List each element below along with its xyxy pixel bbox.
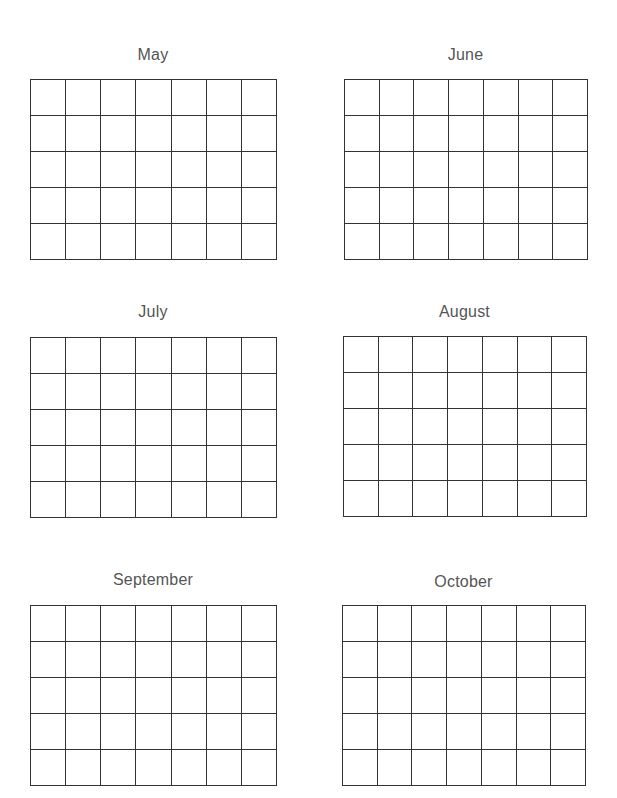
calendar-day-cell: [553, 152, 588, 188]
calendar-week-row: [31, 80, 277, 116]
calendar-day-cell: [413, 409, 448, 445]
calendar-day-cell: [241, 152, 276, 188]
calendar-day-cell: [553, 80, 588, 116]
calendar-day-cell: [449, 116, 484, 152]
calendar-day-cell: [31, 188, 66, 224]
calendar-day-cell: [412, 714, 447, 750]
calendar-day-cell: [482, 409, 517, 445]
calendar-day-cell: [412, 750, 447, 786]
calendar-day-cell: [101, 642, 136, 678]
calendar-day-cell: [414, 116, 449, 152]
calendar-day-cell: [66, 338, 101, 374]
calendar-week-row: [345, 224, 588, 260]
calendar-day-cell: [447, 606, 482, 642]
calendar-week-row: [31, 224, 277, 260]
calendar-day-cell: [449, 80, 484, 116]
calendar-day-cell: [482, 373, 517, 409]
calendar-day-cell: [101, 152, 136, 188]
calendar-day-cell: [518, 188, 553, 224]
calendar-day-cell: [31, 750, 66, 786]
calendar-day-cell: [31, 446, 66, 482]
calendar-day-cell: [241, 188, 276, 224]
calendar-day-cell: [31, 80, 66, 116]
calendar-day-cell: [517, 337, 552, 373]
calendar-day-cell: [377, 750, 412, 786]
calendar-day-cell: [414, 188, 449, 224]
calendar-grid: [30, 79, 277, 260]
calendar-day-cell: [345, 188, 380, 224]
calendar-day-cell: [518, 224, 553, 260]
calendar-day-cell: [101, 482, 136, 518]
calendar-grid: [30, 337, 277, 518]
calendar-day-cell: [241, 642, 276, 678]
calendar-day-cell: [516, 714, 551, 750]
calendar-week-row: [345, 152, 588, 188]
calendar-week-row: [31, 338, 277, 374]
calendar-day-cell: [66, 606, 101, 642]
calendar-day-cell: [66, 224, 101, 260]
calendar-week-row: [31, 446, 277, 482]
calendar-day-cell: [241, 80, 276, 116]
calendar-day-cell: [206, 410, 241, 446]
calendar-day-cell: [413, 337, 448, 373]
calendar-day-cell: [517, 445, 552, 481]
calendar-day-cell: [241, 482, 276, 518]
calendar-day-cell: [101, 750, 136, 786]
calendar-day-cell: [136, 80, 171, 116]
calendar-day-cell: [31, 116, 66, 152]
calendar-day-cell: [343, 714, 378, 750]
month-july: July: [30, 300, 276, 520]
calendar-day-cell: [447, 678, 482, 714]
calendar-day-cell: [31, 410, 66, 446]
calendar-day-cell: [412, 678, 447, 714]
calendar-day-cell: [136, 116, 171, 152]
calendar-day-cell: [344, 409, 379, 445]
calendar-day-cell: [448, 337, 483, 373]
calendar-week-row: [31, 482, 277, 518]
calendar-day-cell: [377, 642, 412, 678]
calendar-day-cell: [551, 678, 586, 714]
calendar-day-cell: [206, 714, 241, 750]
calendar-day-cell: [345, 80, 380, 116]
calendar-day-cell: [413, 445, 448, 481]
calendar-day-cell: [552, 409, 587, 445]
calendar-day-cell: [136, 188, 171, 224]
calendar-week-row: [31, 374, 277, 410]
month-title: September: [30, 571, 276, 589]
month-june: June: [344, 42, 587, 262]
calendar-day-cell: [206, 80, 241, 116]
calendar-day-cell: [483, 80, 518, 116]
calendar-week-row: [345, 80, 588, 116]
calendar-day-cell: [206, 482, 241, 518]
calendar-day-cell: [412, 642, 447, 678]
calendar-day-cell: [101, 338, 136, 374]
calendar-day-cell: [343, 606, 378, 642]
calendar-day-cell: [31, 714, 66, 750]
calendar-grid: [342, 605, 586, 786]
calendar-week-row: [31, 606, 277, 642]
calendar-day-cell: [481, 606, 516, 642]
calendar-week-row: [345, 188, 588, 224]
month-title: June: [344, 46, 587, 64]
calendar-day-cell: [136, 642, 171, 678]
calendar-day-cell: [551, 750, 586, 786]
calendar-week-row: [344, 373, 587, 409]
calendar-day-cell: [136, 152, 171, 188]
calendar-day-cell: [31, 224, 66, 260]
calendar-day-cell: [136, 750, 171, 786]
calendar-day-cell: [414, 80, 449, 116]
calendar-day-cell: [136, 482, 171, 518]
calendar-day-cell: [378, 481, 413, 517]
calendar-day-cell: [101, 80, 136, 116]
calendar-day-cell: [171, 80, 206, 116]
calendar-day-cell: [241, 606, 276, 642]
calendar-day-cell: [413, 373, 448, 409]
calendar-day-cell: [345, 224, 380, 260]
calendar-grid: [30, 605, 277, 786]
calendar-day-cell: [101, 410, 136, 446]
month-title: July: [30, 303, 276, 321]
calendar-day-cell: [377, 714, 412, 750]
calendar-week-row: [31, 410, 277, 446]
calendar-day-cell: [136, 678, 171, 714]
calendar-day-cell: [171, 482, 206, 518]
